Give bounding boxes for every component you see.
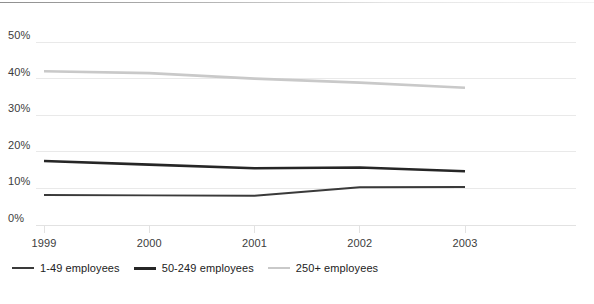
x-axis-ticks-group bbox=[44, 225, 465, 233]
series-line bbox=[44, 71, 465, 87]
legend-line-swatch bbox=[134, 267, 156, 270]
legend-line-swatch bbox=[12, 267, 34, 269]
series-line bbox=[44, 161, 465, 171]
legend-item-label: 250+ employees bbox=[296, 262, 378, 274]
y-axis-tick-label: 10% bbox=[8, 175, 30, 187]
y-axis-tick-label: 20% bbox=[8, 139, 30, 151]
y-axis-tick-label: 30% bbox=[8, 102, 30, 114]
chart-container: 50%40%30%20%10%0% 19992000200120022003 1… bbox=[0, 0, 594, 304]
legend-line-swatch bbox=[268, 267, 290, 269]
line-chart-plot bbox=[0, 0, 594, 260]
chart-legend: 1-49 employees50-249 employees250+ emplo… bbox=[12, 262, 378, 274]
legend-item[interactable]: 1-49 employees bbox=[12, 262, 120, 274]
x-axis-tick-label: 2001 bbox=[242, 237, 267, 249]
y-axis-tick-label: 50% bbox=[8, 29, 30, 41]
series-lines-group bbox=[44, 71, 465, 195]
y-axis-tick-label: 0% bbox=[8, 212, 24, 224]
legend-item[interactable]: 250+ employees bbox=[268, 262, 378, 274]
legend-item-label: 50-249 employees bbox=[162, 262, 254, 274]
x-axis-tick-label: 2002 bbox=[347, 237, 372, 249]
legend-item-label: 1-49 employees bbox=[40, 262, 120, 274]
x-axis-tick-label: 2000 bbox=[137, 237, 162, 249]
legend-item[interactable]: 50-249 employees bbox=[134, 262, 254, 274]
y-axis-tick-label: 40% bbox=[8, 66, 30, 78]
x-axis-tick-label: 2003 bbox=[453, 237, 478, 249]
gridlines-group bbox=[36, 42, 576, 225]
x-axis-tick-label: 1999 bbox=[32, 237, 57, 249]
